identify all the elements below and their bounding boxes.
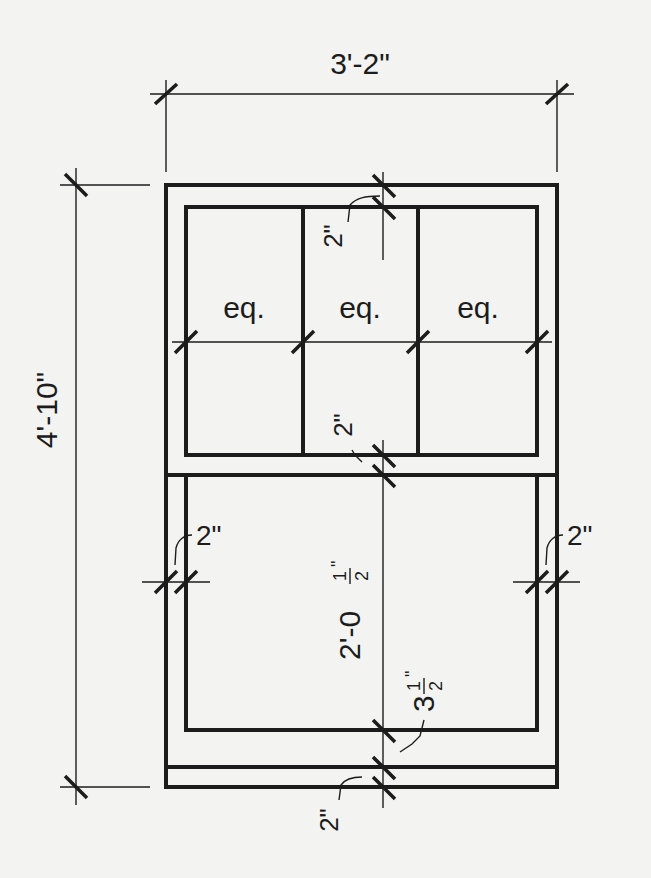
fraction-denominator: 2 [426,681,446,691]
bottom-rail-dimension: 3 1 2 " [400,671,446,752]
top-rail-dimension: 2" [318,196,380,248]
window-elevation-drawing: 3'-2" 4'-10" 2" [0,0,651,878]
drawing-canvas: 3'-2" 4'-10" 2" [0,0,651,878]
upper-sash [186,207,537,455]
equal-panes-dimension: eq. eq. eq. [172,291,552,353]
overall-width-label: 3'-2" [330,47,390,80]
pane-label-left: eq. [223,291,265,324]
lower-sash [186,475,537,730]
fraction-numerator: 1 [404,681,424,691]
pane-label-center: eq. [339,291,381,324]
inch-mark: " [328,561,348,567]
fraction-denominator: 2 [352,571,372,581]
overall-height-dimension: 4'-10" [30,168,150,805]
leader-line [400,720,424,752]
lower-sash-height-dimension: 2'-0 1 2 " [328,561,372,660]
overall-width-dimension: 3'-2" [150,47,574,172]
meeting-rail-label: 2" [328,413,358,437]
outer-frame [166,185,557,787]
leader-line [546,535,563,565]
bottom-rail-label: 3 [407,695,440,712]
top-rail-label: 2" [318,224,348,248]
window-frame [166,185,557,787]
leader-line [175,535,192,565]
lower-sash-frame [186,475,537,730]
sill-label: 2" [314,808,344,832]
pane-label-right: eq. [457,291,499,324]
right-gap-label: 2" [567,520,593,551]
center-dimension-string [373,172,395,808]
overall-height-label: 4'-10" [30,372,63,448]
upper-sash-frame [186,207,537,455]
left-gap-label: 2" [196,520,222,551]
side-gap-dimensions: 2" 2" [142,520,593,593]
inch-mark: " [402,671,422,677]
lower-sash-height-label: 2'-0 [333,611,366,660]
fraction-numerator: 1 [330,571,350,581]
